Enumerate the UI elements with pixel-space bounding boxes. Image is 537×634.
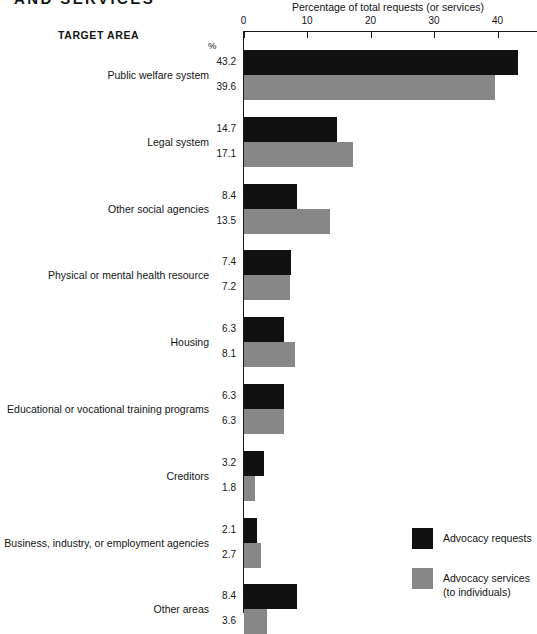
bar-value-label: 6.3 <box>200 415 236 426</box>
bar-value-label: 8.1 <box>200 348 236 359</box>
bar-group: 14.717.1Legal system <box>0 117 537 167</box>
bar-group: 3.21.8Creditors <box>0 451 537 501</box>
bar-services <box>244 409 284 434</box>
bar-requests <box>244 317 284 342</box>
bar-group: 6.36.3Educational or vocational training… <box>0 384 537 434</box>
category-label: Public welfare system <box>107 69 209 81</box>
category-label: Physical or mental health resource <box>48 269 209 281</box>
category-label: Business, industry, or employment agenci… <box>4 537 209 549</box>
bar-services <box>244 275 290 300</box>
bar-services <box>244 476 255 501</box>
bar-group: 8.413.5Other social agencies <box>0 184 537 234</box>
bar-group: 43.239.6Public welfare system <box>0 50 537 100</box>
bar-services <box>244 342 295 367</box>
bar-value-label: 17.1 <box>200 148 236 159</box>
legend-label-services: Advocacy services (to individuals) <box>443 571 530 599</box>
bar-services <box>244 543 261 568</box>
bar-group: 6.38.1Housing <box>0 317 537 367</box>
bar-value-label: 8.4 <box>200 190 236 201</box>
bar-group: 7.47.2Physical or mental health resource <box>0 250 537 300</box>
bar-requests <box>244 50 518 75</box>
bar-requests <box>244 584 297 609</box>
bar-requests <box>244 451 264 476</box>
category-label: Educational or vocational training progr… <box>7 403 209 415</box>
bar-services <box>244 209 330 234</box>
bar-value-label: 7.2 <box>200 281 236 292</box>
bar-requests <box>244 184 297 209</box>
category-label: Legal system <box>147 136 209 148</box>
bar-services <box>244 609 267 634</box>
bar-services <box>244 142 353 167</box>
bar-value-label: 14.7 <box>200 123 236 134</box>
bar-requests <box>244 518 257 543</box>
category-label: Housing <box>170 336 209 348</box>
bar-value-label: 8.4 <box>200 590 236 601</box>
bar-services <box>244 75 495 100</box>
bar-requests <box>244 250 291 275</box>
legend-label-services-line1: Advocacy services <box>443 571 530 585</box>
category-label: Other social agencies <box>108 203 209 215</box>
bar-requests <box>244 384 284 409</box>
legend-swatch-requests <box>412 528 433 549</box>
category-label: Creditors <box>166 470 209 482</box>
bar-value-label: 2.7 <box>200 549 236 560</box>
legend-swatch-services <box>412 568 433 589</box>
bar-value-label: 6.3 <box>200 323 236 334</box>
bar-requests <box>244 117 337 142</box>
bar-value-label: 3.2 <box>200 457 236 468</box>
bar-value-label: 7.4 <box>200 256 236 267</box>
bar-value-label: 3.6 <box>200 615 236 626</box>
bar-value-label: 43.2 <box>200 56 236 67</box>
legend-label-services-line2: (to individuals) <box>443 585 530 599</box>
bar-value-label: 39.6 <box>200 81 236 92</box>
bar-value-label: 2.1 <box>200 524 236 535</box>
legend-label-requests: Advocacy requests <box>443 531 532 545</box>
bar-value-label: 1.8 <box>200 482 236 493</box>
bar-value-label: 13.5 <box>200 215 236 226</box>
category-label: Other areas <box>154 603 209 615</box>
bar-value-label: 6.3 <box>200 390 236 401</box>
